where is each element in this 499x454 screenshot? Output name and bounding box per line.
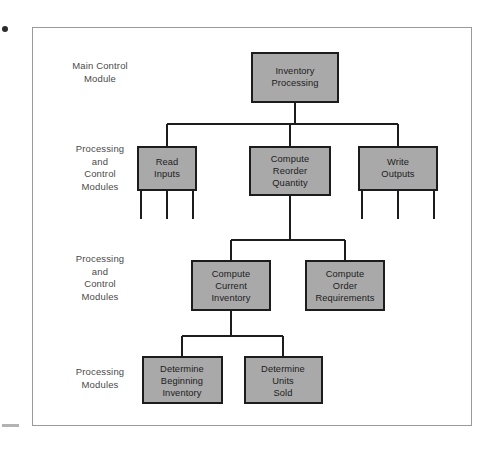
node-label-determine-beginning-inventory-line3: Inventory (162, 388, 201, 398)
node-read-inputs[interactable]: Read Inputs (138, 147, 196, 190)
node-label-write-outputs-line1: Write (387, 157, 409, 167)
node-label-compute-reorder-quantity-line1: Compute (271, 154, 309, 164)
node-label-compute-current-inventory-line2: Current (215, 281, 247, 291)
node-label-compute-order-requirements-line2: Order (333, 281, 357, 291)
node-determine-beginning-inventory[interactable]: Determine Beginning Inventory (143, 357, 222, 403)
node-inventory-processing[interactable]: Inventory Processing (252, 53, 338, 102)
node-label-inventory-processing-line2: Processing (272, 78, 319, 88)
node-label-compute-current-inventory-line3: Inventory (211, 293, 250, 303)
node-compute-current-inventory[interactable]: Compute Current Inventory (192, 261, 270, 310)
node-label-read-inputs-line2: Inputs (154, 169, 180, 179)
node-label-determine-units-sold-line1: Determine (261, 364, 305, 374)
node-label-read-inputs-line1: Read (156, 157, 179, 167)
node-compute-reorder-quantity[interactable]: Compute Reorder Quantity (250, 147, 330, 195)
node-label-determine-beginning-inventory-line1: Determine (160, 364, 204, 374)
node-label-inventory-processing-line1: Inventory (275, 66, 314, 76)
node-label-compute-reorder-quantity-line2: Reorder (273, 166, 307, 176)
diagram-page: Main Control Module Processing and Contr… (0, 0, 499, 454)
connectors-group (167, 102, 398, 357)
node-label-compute-reorder-quantity-line3: Quantity (272, 178, 308, 188)
node-write-outputs[interactable]: Write Outputs (359, 147, 437, 190)
node-label-determine-units-sold-line2: Units (272, 376, 294, 386)
node-label-determine-units-sold-line3: Sold (273, 388, 292, 398)
node-determine-units-sold[interactable]: Determine Units Sold (245, 357, 322, 403)
stub-lines-write-outputs (362, 190, 434, 219)
node-label-write-outputs-line2: Outputs (381, 169, 415, 179)
structure-chart-svg: Inventory Processing Read Inputs Compute… (0, 0, 499, 454)
node-compute-order-requirements[interactable]: Compute Order Requirements (306, 261, 384, 310)
node-label-compute-current-inventory-line1: Compute (212, 269, 250, 279)
node-label-compute-order-requirements-line1: Compute (326, 269, 364, 279)
node-label-determine-beginning-inventory-line2: Beginning (161, 376, 203, 386)
node-label-compute-order-requirements-line3: Requirements (315, 293, 374, 303)
stub-lines-read-inputs (141, 190, 193, 219)
